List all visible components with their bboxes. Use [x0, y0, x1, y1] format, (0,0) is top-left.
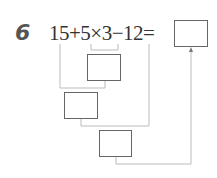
step3-box[interactable] [100, 131, 132, 157]
calculation-diagram [0, 0, 217, 178]
answer-box[interactable] [175, 21, 208, 47]
step2-box[interactable] [65, 93, 98, 119]
arrow-up-icon [189, 47, 193, 52]
step1-box[interactable] [88, 55, 121, 81]
bracket-5x3 [91, 44, 118, 50]
